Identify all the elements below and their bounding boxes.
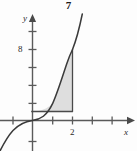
- figure-container: 7: [0, 0, 137, 151]
- x-axis: [0, 117, 135, 124]
- y-tick-label-8: 8: [18, 44, 23, 54]
- x-tick-label-2: 2: [70, 127, 75, 137]
- chart-canvas: [0, 0, 137, 151]
- y-axis-label: y: [23, 13, 27, 23]
- shaded-region: [32, 50, 72, 112]
- y-axis: [29, 14, 36, 151]
- x-axis-label: x: [124, 127, 128, 137]
